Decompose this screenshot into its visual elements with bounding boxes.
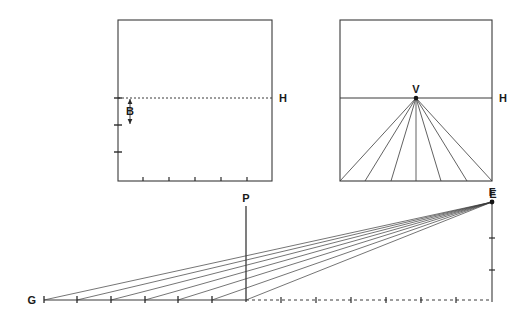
vanishing-ray-5 [416,98,441,181]
ground-point-label: G [27,294,36,306]
vanishing-point-dot [414,96,419,101]
dimension-arrow-down-icon [128,119,133,124]
perspective-diagram: B H V H [0,0,526,323]
horizon-label-right: H [499,92,507,104]
vanishing-ray-1 [340,98,416,181]
convergence-ray-1 [44,202,492,300]
convergence-ray-2 [77,202,492,300]
eye-point-label: E [489,188,496,200]
convergence-ray-4 [145,202,492,300]
dimension-label-b: B [126,105,134,117]
eye-point-dot [490,200,495,205]
vanishing-ray-3 [391,98,416,181]
horizon-label-left: H [279,92,287,104]
dimension-arrow-up-icon [128,99,133,104]
perspective-panel: V H F [340,20,507,198]
vanishing-ray-6 [416,98,467,181]
picture-plane-label: P [242,192,249,204]
elevation-panel-frame [118,20,272,181]
vanishing-ray-2 [365,98,416,181]
convergence-ray-3 [111,202,492,300]
diagram-canvas: B H V H [0,0,526,323]
vanishing-point-label: V [412,83,420,95]
plan-construction: P E G [27,188,496,306]
convergence-ray-5 [178,202,492,300]
convergence-ray-7 [246,202,492,300]
vanishing-ray-7 [416,98,492,181]
elevation-panel: B H [114,20,287,181]
convergence-ray-6 [212,202,492,300]
